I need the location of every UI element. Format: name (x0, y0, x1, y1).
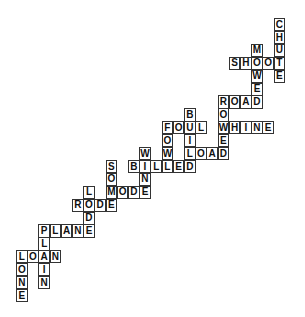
grid-cell: D (184, 160, 196, 173)
grid-cell: O (117, 186, 129, 199)
grid-cell: O (251, 57, 263, 70)
grid-cell: I (139, 160, 151, 173)
grid-cell: L (184, 147, 196, 160)
grid-cell: E (83, 224, 95, 237)
grid-cell: M (251, 44, 263, 57)
grid-cell: O (262, 57, 274, 70)
crossword-board: CHUTESHOOMWEDROAOWEDHINELOABUIDFOLOWLBIL… (0, 0, 305, 317)
grid-cell: A (240, 95, 252, 108)
grid-cell: O (173, 121, 185, 134)
grid-cell: R (218, 95, 230, 108)
grid-cell: I (38, 263, 50, 276)
grid-cell: O (218, 108, 230, 121)
grid-cell: O (229, 95, 241, 108)
grid-cell: N (38, 276, 50, 289)
grid-cell: H (240, 57, 252, 70)
grid-cell: N (16, 276, 28, 289)
grid-cell: O (162, 134, 174, 147)
grid-cell: E (262, 121, 274, 134)
grid-cell: O (106, 173, 118, 186)
grid-cell: C (274, 18, 286, 31)
grid-cell: N (50, 250, 62, 263)
grid-cell: D (128, 186, 140, 199)
grid-cell: B (184, 108, 196, 121)
grid-cell: S (106, 160, 118, 173)
grid-cell: I (240, 121, 252, 134)
grid-cell: E (106, 199, 118, 212)
grid-cell: L (50, 224, 62, 237)
grid-cell: E (139, 186, 151, 199)
grid-cell: D (251, 95, 263, 108)
grid-cell: O (195, 147, 207, 160)
grid-cell: U (274, 44, 286, 57)
grid-cell: A (61, 224, 73, 237)
grid-cell: U (184, 121, 196, 134)
grid-cell: L (83, 186, 95, 199)
grid-cell: O (27, 250, 39, 263)
grid-cell: W (218, 121, 230, 134)
grid-cell: P (38, 224, 50, 237)
grid-cell: S (229, 57, 241, 70)
grid-cell: L (150, 160, 162, 173)
grid-cell: A (38, 250, 50, 263)
grid-cell: N (72, 224, 84, 237)
grid-cell: O (16, 263, 28, 276)
grid-cell: W (139, 147, 151, 160)
grid-cell: D (94, 199, 106, 212)
grid-cell: H (274, 31, 286, 44)
grid-cell: R (72, 199, 84, 212)
grid-cell: E (218, 134, 230, 147)
grid-cell: H (229, 121, 241, 134)
grid-cell: L (195, 121, 207, 134)
grid-cell: D (218, 147, 230, 160)
grid-cell: N (251, 121, 263, 134)
grid-cell: O (83, 199, 95, 212)
grid-cell: D (83, 212, 95, 225)
grid-cell: B (128, 160, 140, 173)
grid-cell: T (274, 57, 286, 70)
grid-cell: L (162, 160, 174, 173)
grid-cell: E (173, 160, 185, 173)
grid-cell: E (274, 70, 286, 83)
grid-cell: M (106, 186, 118, 199)
grid-cell: L (16, 250, 28, 263)
grid-cell: A (206, 147, 218, 160)
grid-cell: E (251, 83, 263, 96)
grid-cell: L (38, 237, 50, 250)
grid-cell: W (162, 147, 174, 160)
grid-cell: E (16, 289, 28, 302)
grid-cell: I (184, 134, 196, 147)
grid-cell: F (162, 121, 174, 134)
grid-cell: W (251, 70, 263, 83)
grid-cell: N (139, 173, 151, 186)
